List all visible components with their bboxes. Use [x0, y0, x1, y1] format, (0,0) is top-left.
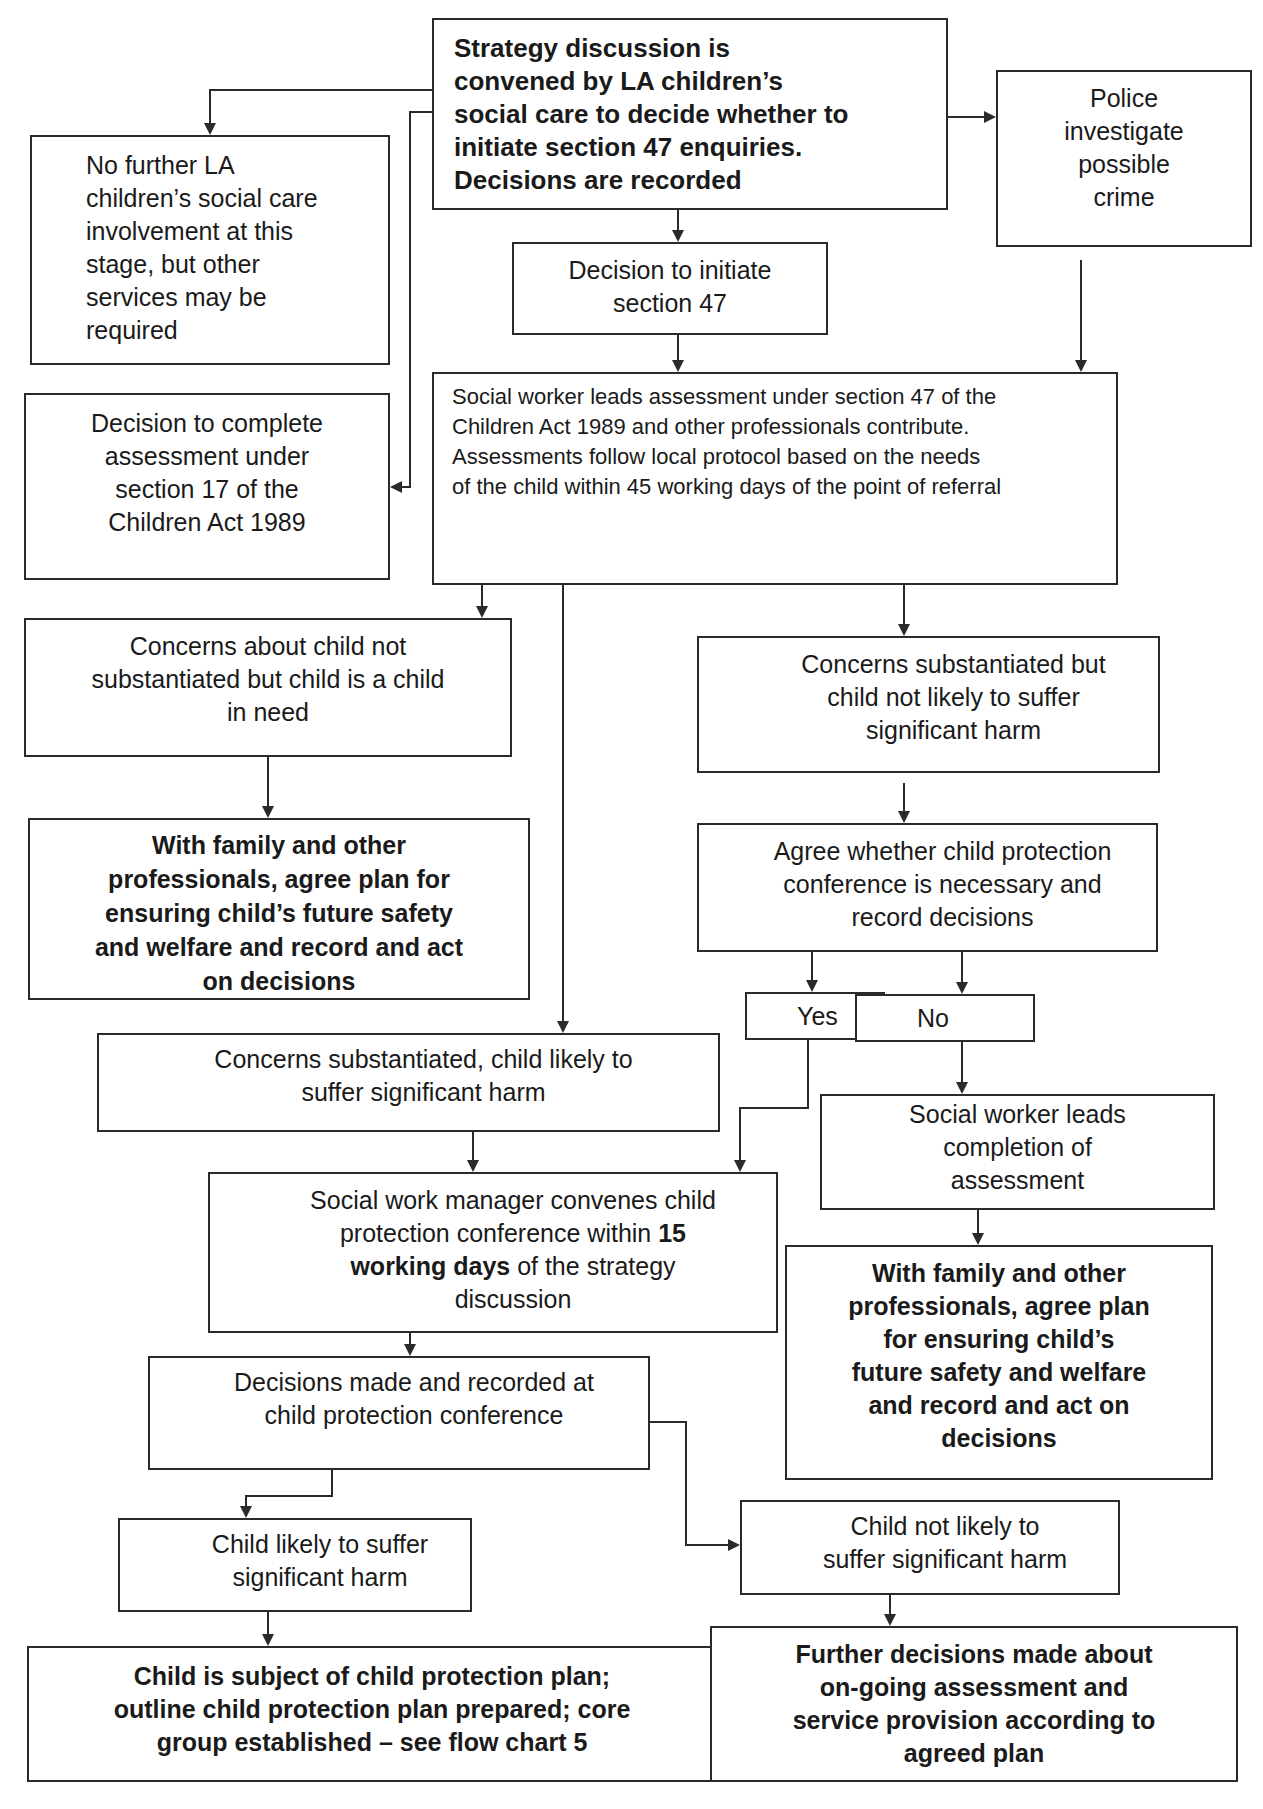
decisions-made-text: Decisions made and recorded at child pro…: [234, 1366, 594, 1432]
no-label: No: [917, 1002, 949, 1035]
family-plan-right-text: With family and other professionals, agr…: [848, 1257, 1150, 1455]
police-investigate-box: Police investigate possible crime: [996, 70, 1252, 247]
arrow-strategy-to-no-further: [210, 90, 432, 133]
strategy-discussion-text: Strategy discussion is convened by LA ch…: [454, 32, 848, 197]
family-plan-right-box: With family and other professionals, agr…: [785, 1245, 1213, 1480]
arrow-decisions-to-child-likely: [246, 1470, 332, 1516]
family-plan-left-text: With family and other professionals, agr…: [95, 828, 463, 998]
decision-initiate-s47-box: Decision to initiate section 47: [512, 242, 828, 335]
not-substantiated-box: Concerns about child not substantiated b…: [24, 618, 512, 757]
family-plan-left-box: With family and other professionals, agr…: [28, 818, 530, 1000]
decision-s17-text: Decision to complete assessment under se…: [91, 407, 323, 539]
child-likely-harm-box: Child likely to suffer significant harm: [118, 1518, 472, 1612]
arrow-decisions-to-child-not-likely: [650, 1422, 738, 1545]
decisions-made-box: Decisions made and recorded at child pro…: [148, 1356, 650, 1470]
no-further-involvement-box: No further LA children’s social care inv…: [30, 135, 390, 365]
child-likely-harm-text: Child likely to suffer significant harm: [212, 1528, 428, 1594]
arrow-yes-to-manager: [740, 1040, 808, 1170]
s47-assessment-text: Social worker leads assessment under sec…: [452, 382, 1001, 502]
substantiated-not-likely-text: Concerns substantiated but child not lik…: [801, 648, 1105, 747]
manager-conference-text-pre: Social work manager convenes child prote…: [310, 1186, 716, 1247]
decision-s17-box: Decision to complete assessment under se…: [24, 393, 390, 580]
agree-conference-text: Agree whether child protection conferenc…: [774, 835, 1112, 934]
cp-plan-text: Child is subject of child protection pla…: [114, 1660, 631, 1759]
further-decisions-text: Further decisions made about on-going as…: [793, 1638, 1156, 1770]
substantiated-not-likely-box: Concerns substantiated but child not lik…: [697, 636, 1160, 773]
police-investigate-text: Police investigate possible crime: [1064, 82, 1184, 214]
s47-assessment-box: Social worker leads assessment under sec…: [432, 372, 1118, 585]
sw-completion-text: Social worker leads completion of assess…: [909, 1098, 1126, 1197]
manager-conference-text: Social work manager convenes child prote…: [310, 1184, 716, 1316]
agree-conference-box: Agree whether child protection conferenc…: [697, 823, 1158, 952]
manager-conference-box: Social work manager convenes child prote…: [208, 1172, 778, 1333]
not-substantiated-text: Concerns about child not substantiated b…: [92, 630, 445, 729]
substantiated-likely-box: Concerns substantiated, child likely to …: [97, 1033, 720, 1132]
no-further-involvement-text: No further LA children’s social care inv…: [86, 149, 318, 347]
strategy-discussion-box: Strategy discussion is convened by LA ch…: [432, 18, 948, 210]
decision-initiate-s47-text: Decision to initiate section 47: [569, 254, 772, 320]
sw-completion-box: Social worker leads completion of assess…: [820, 1094, 1215, 1210]
substantiated-likely-text: Concerns substantiated, child likely to …: [214, 1043, 632, 1109]
cp-plan-box: Child is subject of child protection pla…: [27, 1646, 717, 1782]
arrow-strategy-to-s17: [392, 112, 432, 487]
no-box: No: [855, 994, 1035, 1042]
child-not-likely-harm-box: Child not likely to suffer significant h…: [740, 1500, 1120, 1595]
further-decisions-box: Further decisions made about on-going as…: [710, 1626, 1238, 1782]
yes-label: Yes: [797, 1000, 838, 1033]
child-not-likely-harm-text: Child not likely to suffer significant h…: [823, 1510, 1067, 1576]
